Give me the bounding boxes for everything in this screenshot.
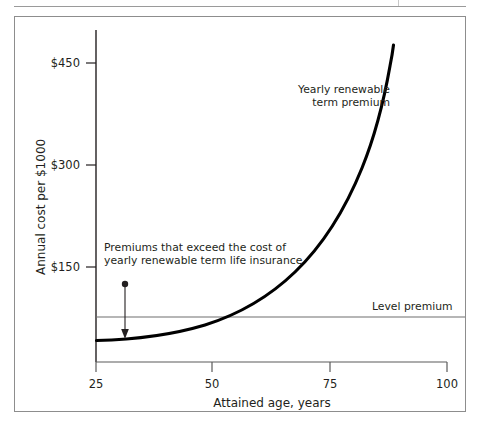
yearly-renewable-term-premium-label-line2: term premium [265, 96, 390, 109]
y-tick-label-450: $450 [30, 56, 80, 70]
yearly-renewable-term-premium-label-line1: Yearly renewable [265, 83, 390, 96]
x-tick-label-50: 50 [192, 377, 232, 391]
excess-premium-callout: Premiums that exceed the cost of yearly … [104, 241, 324, 268]
y-axis-title: Annual cost per $1000 [34, 139, 49, 275]
level-premium-label: Level premium [372, 300, 453, 313]
x-tick-label-25: 25 [76, 377, 116, 391]
x-axis-title: Attained age, years [172, 396, 372, 411]
x-tick-label-75: 75 [310, 377, 350, 391]
figure-container: $450 $300 $150 25 50 75 100 Attained age… [0, 0, 481, 425]
x-tick-label-100: 100 [427, 377, 467, 391]
excess-premium-callout-line2: yearly renewable term life insurance [104, 254, 324, 267]
yearly-renewable-term-premium-label: Yearly renewable term premium [265, 83, 390, 110]
excess-premium-callout-line1: Premiums that exceed the cost of [104, 241, 324, 254]
